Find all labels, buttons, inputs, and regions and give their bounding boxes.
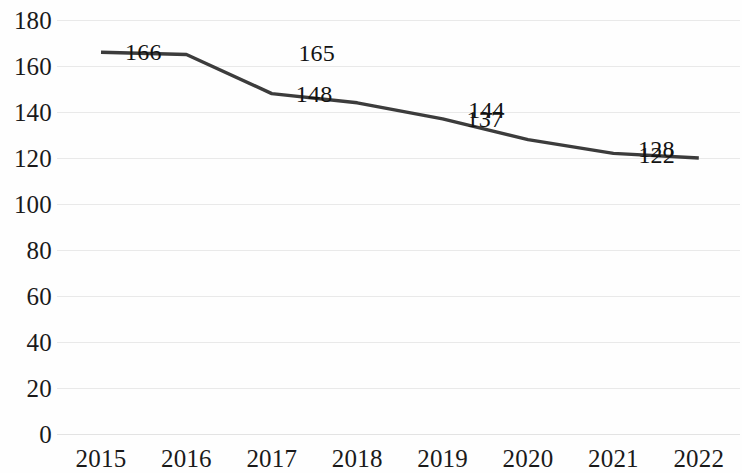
line-chart: 020406080100120140160180 166165148144137…: [0, 0, 742, 473]
x-axis-tick-label: 2019: [400, 446, 486, 471]
x-axis-tick-label: 2015: [58, 446, 144, 471]
data-point-label: 148: [296, 82, 333, 106]
x-axis-tick-label: 2018: [314, 446, 400, 471]
x-axis-tick-label: 2021: [570, 446, 656, 471]
plot-area: [0, 0, 742, 473]
data-point-label: 165: [298, 41, 335, 65]
data-point-label: 137: [467, 107, 504, 131]
data-point-label: 122: [638, 143, 675, 167]
x-axis-tick-label: 2022: [656, 446, 742, 471]
x-axis-tick-label: 2016: [143, 446, 229, 471]
data-point-label: 166: [125, 40, 162, 64]
x-axis-tick-label: 2017: [229, 446, 315, 471]
series-line: [101, 52, 699, 158]
x-axis-tick-label: 2020: [485, 446, 571, 471]
